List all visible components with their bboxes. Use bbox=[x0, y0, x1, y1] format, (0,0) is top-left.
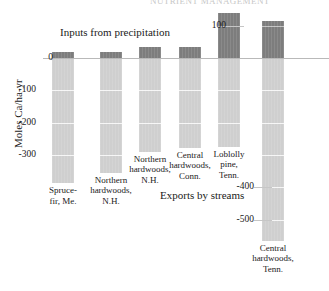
tick-connector-line bbox=[226, 26, 244, 27]
bar-segment-export[interactable] bbox=[52, 58, 74, 183]
y-tick-label-right: -400 bbox=[230, 181, 254, 191]
gridline bbox=[262, 123, 284, 124]
bar-segment-input[interactable] bbox=[179, 47, 201, 58]
gridline bbox=[218, 90, 240, 91]
y-tick-label-right: -500 bbox=[230, 214, 254, 224]
gridline bbox=[218, 123, 240, 124]
y-tick-label-right: 100 bbox=[202, 20, 226, 30]
gridline bbox=[100, 90, 122, 91]
gridline bbox=[139, 123, 161, 124]
chart-plot-area: Spruce- fir, Me.Northern hardwoods, N.H.… bbox=[0, 0, 329, 291]
y-tick-label-left: 0 bbox=[31, 52, 53, 62]
figure-root: NUTRIENT MANAGEMENT Spruce- fir, Me.Nort… bbox=[0, 0, 329, 291]
annotation-inputs: Inputs from precipitation bbox=[60, 26, 170, 38]
bar-group[interactable] bbox=[179, 0, 201, 291]
tick-connector-line bbox=[254, 220, 272, 221]
y-tick-label-left: -200 bbox=[14, 117, 36, 127]
bar-group[interactable] bbox=[100, 0, 122, 291]
category-label: Central hardwoods, Tenn. bbox=[240, 243, 306, 275]
gridline bbox=[262, 26, 284, 27]
zero-axis-line bbox=[43, 58, 329, 59]
bar-segment-export[interactable] bbox=[139, 58, 161, 152]
gridline bbox=[52, 123, 74, 124]
bar-segment-export[interactable] bbox=[218, 58, 240, 147]
gridline bbox=[262, 90, 284, 91]
y-tick-label-left: -300 bbox=[14, 149, 36, 159]
bar-segment-export[interactable] bbox=[262, 58, 284, 241]
gridline bbox=[262, 155, 284, 156]
gridline bbox=[139, 90, 161, 91]
bar-segment-input[interactable] bbox=[139, 47, 161, 58]
gridline bbox=[179, 90, 201, 91]
tick-connector-line bbox=[254, 187, 272, 188]
bar-group[interactable] bbox=[218, 0, 240, 291]
y-tick-label-left: -100 bbox=[14, 84, 36, 94]
gridline bbox=[52, 155, 74, 156]
bar-group[interactable] bbox=[52, 0, 74, 291]
bar-segment-export[interactable] bbox=[179, 58, 201, 148]
category-label: Loblolly pine, Tenn. bbox=[196, 149, 262, 181]
bar-group[interactable] bbox=[139, 0, 161, 291]
gridline bbox=[52, 90, 74, 91]
gridline bbox=[100, 155, 122, 156]
gridline bbox=[100, 123, 122, 124]
gridline bbox=[179, 123, 201, 124]
